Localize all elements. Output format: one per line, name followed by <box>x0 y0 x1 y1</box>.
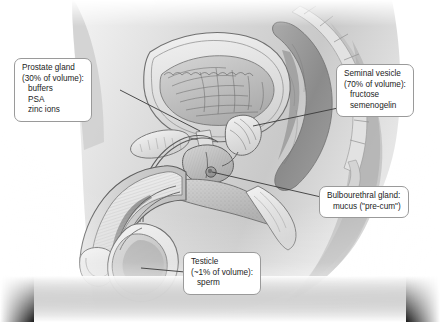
callout-line: semenogelin <box>344 101 406 112</box>
callout-line: Bulbourethral gland: <box>327 191 401 202</box>
callout-line: (30% of volume): <box>22 74 84 85</box>
figure-canvas: Prostate gland (30% of volume): buffers … <box>0 0 440 322</box>
seminal-vesicle-callout[interactable]: Seminal vesicle (70% of volume): fructos… <box>336 64 414 117</box>
bulbourethral-gland-callout[interactable]: Bulbourethral gland: mucus ("pre-cum") <box>319 186 409 218</box>
callout-line: sperm <box>191 278 253 289</box>
callout-line: Prostate gland <box>22 63 84 74</box>
callout-line: zinc ions <box>22 105 84 116</box>
callout-line: fructose <box>344 90 406 101</box>
prostate-gland-callout[interactable]: Prostate gland (30% of volume): buffers … <box>14 58 92 122</box>
callout-line: mucus ("pre-cum") <box>327 202 401 213</box>
callout-line: Testicle <box>191 257 253 268</box>
testicle-callout[interactable]: Testicle (~1% of volume): sperm <box>183 252 261 295</box>
callout-line: (~1% of volume): <box>191 268 253 279</box>
callout-line: PSA <box>22 95 84 106</box>
callout-line: (70% of volume): <box>344 80 406 91</box>
callout-line: buffers <box>22 84 84 95</box>
callout-line: Seminal vesicle <box>344 69 406 80</box>
